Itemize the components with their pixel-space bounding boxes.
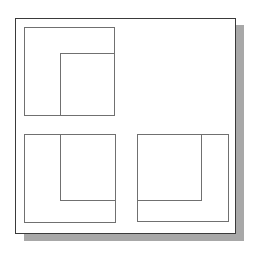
- projection-views: [0, 0, 254, 253]
- side-view-outer-rect: [138, 135, 229, 222]
- top-view-outer-rect: [25, 28, 115, 116]
- front-view-outer-rect: [25, 135, 116, 223]
- top-view-inner-rect: [61, 54, 115, 116]
- front-view: [25, 135, 116, 223]
- front-view-inner-rect: [61, 135, 116, 201]
- side-view-inner-rect: [138, 135, 202, 201]
- diagram-canvas: [0, 0, 254, 253]
- top-view: [25, 28, 115, 116]
- side-view: [138, 135, 229, 222]
